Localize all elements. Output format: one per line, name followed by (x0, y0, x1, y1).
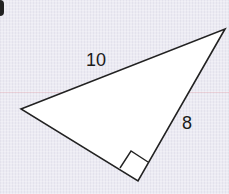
right-triangle (21, 29, 225, 181)
hypotenuse-label: 10 (86, 50, 106, 71)
triangle-diagram (0, 0, 229, 194)
leg-label: 8 (182, 113, 192, 134)
